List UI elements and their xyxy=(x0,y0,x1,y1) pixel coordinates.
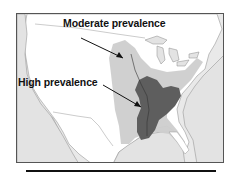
moderate-prevalence-label: Moderate prevalence xyxy=(63,17,166,29)
high-prevalence-label: High prevalence xyxy=(18,76,98,88)
us-map xyxy=(17,14,224,163)
divider-rule xyxy=(26,170,216,172)
map-frame xyxy=(16,13,224,163)
